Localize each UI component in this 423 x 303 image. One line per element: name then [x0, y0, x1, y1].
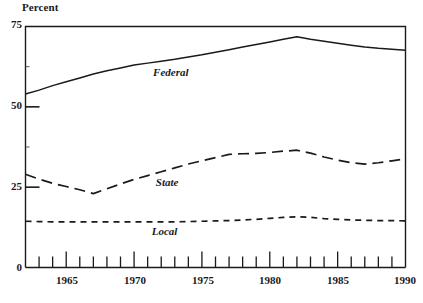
- series-paths: [26, 37, 406, 222]
- series-line-local: [26, 217, 406, 222]
- axes-frame: [26, 27, 406, 268]
- series-line-state: [26, 150, 406, 193]
- series-line-federal: [26, 37, 406, 94]
- chart-container: Percent 75 50 25 0 1965 1970 1975 1980 1…: [0, 0, 423, 303]
- plot-area: [0, 0, 423, 303]
- x-tick-marks: [39, 252, 392, 268]
- y-tick-marks: [26, 67, 40, 188]
